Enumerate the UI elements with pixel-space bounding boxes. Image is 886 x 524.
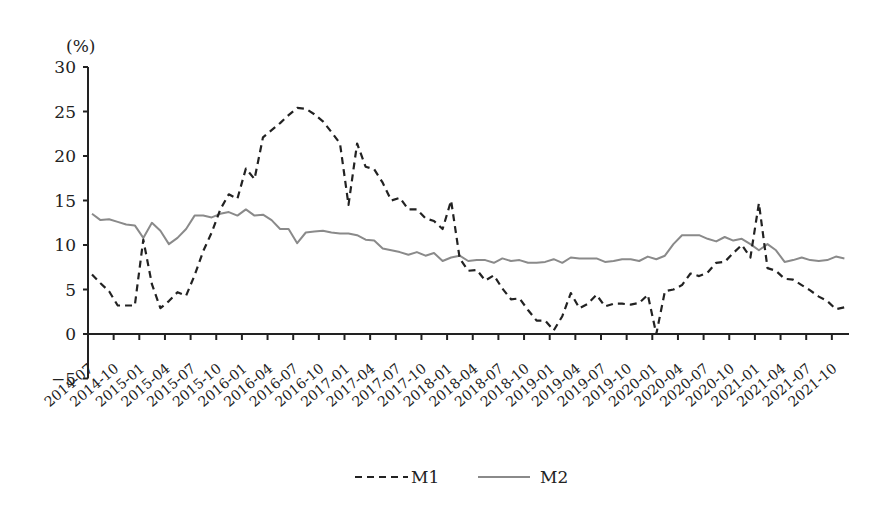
series-m1-line — [92, 108, 844, 334]
x-axis: 2014-072014-102015-012015-042015-072015-… — [41, 334, 849, 410]
y-axis: 302520151050−5 — [51, 57, 88, 389]
y-tick-label: 30 — [54, 57, 76, 77]
series-lines — [92, 108, 844, 334]
y-tick-label: 15 — [54, 191, 76, 211]
y-tick-label: 0 — [65, 324, 76, 344]
y-tick-label: 10 — [54, 235, 76, 255]
series-m2-line — [92, 209, 844, 262]
line-chart: (%) 302520151050−5 2014-072014-102015-01… — [0, 0, 886, 524]
y-tick-label: 20 — [54, 146, 76, 166]
y-tick-label: 25 — [54, 102, 76, 122]
legend-m1-label: M1 — [411, 467, 439, 487]
y-unit-label: (%) — [66, 36, 95, 56]
y-tick-label: 5 — [65, 280, 76, 300]
legend-m2-label: M2 — [540, 467, 568, 487]
legend: M1 M2 — [355, 467, 568, 487]
